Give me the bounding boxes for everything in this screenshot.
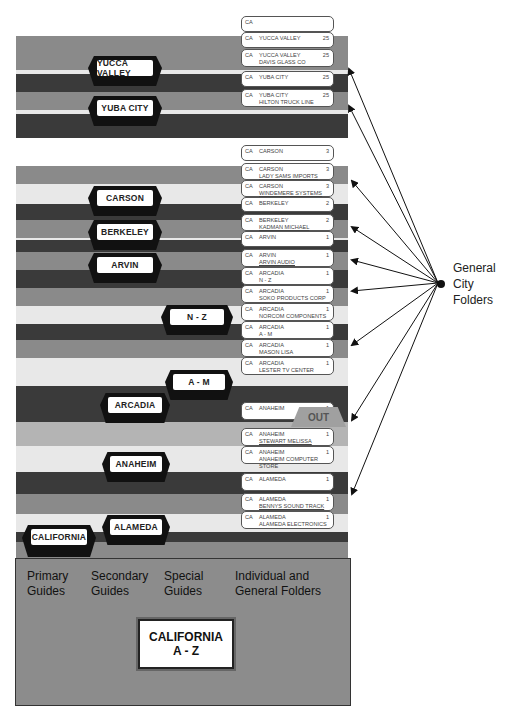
bullet-icon [437, 280, 445, 288]
arrows-icon [0, 0, 515, 722]
annotation-general-city-folders: GeneralCityFolders [453, 260, 496, 308]
